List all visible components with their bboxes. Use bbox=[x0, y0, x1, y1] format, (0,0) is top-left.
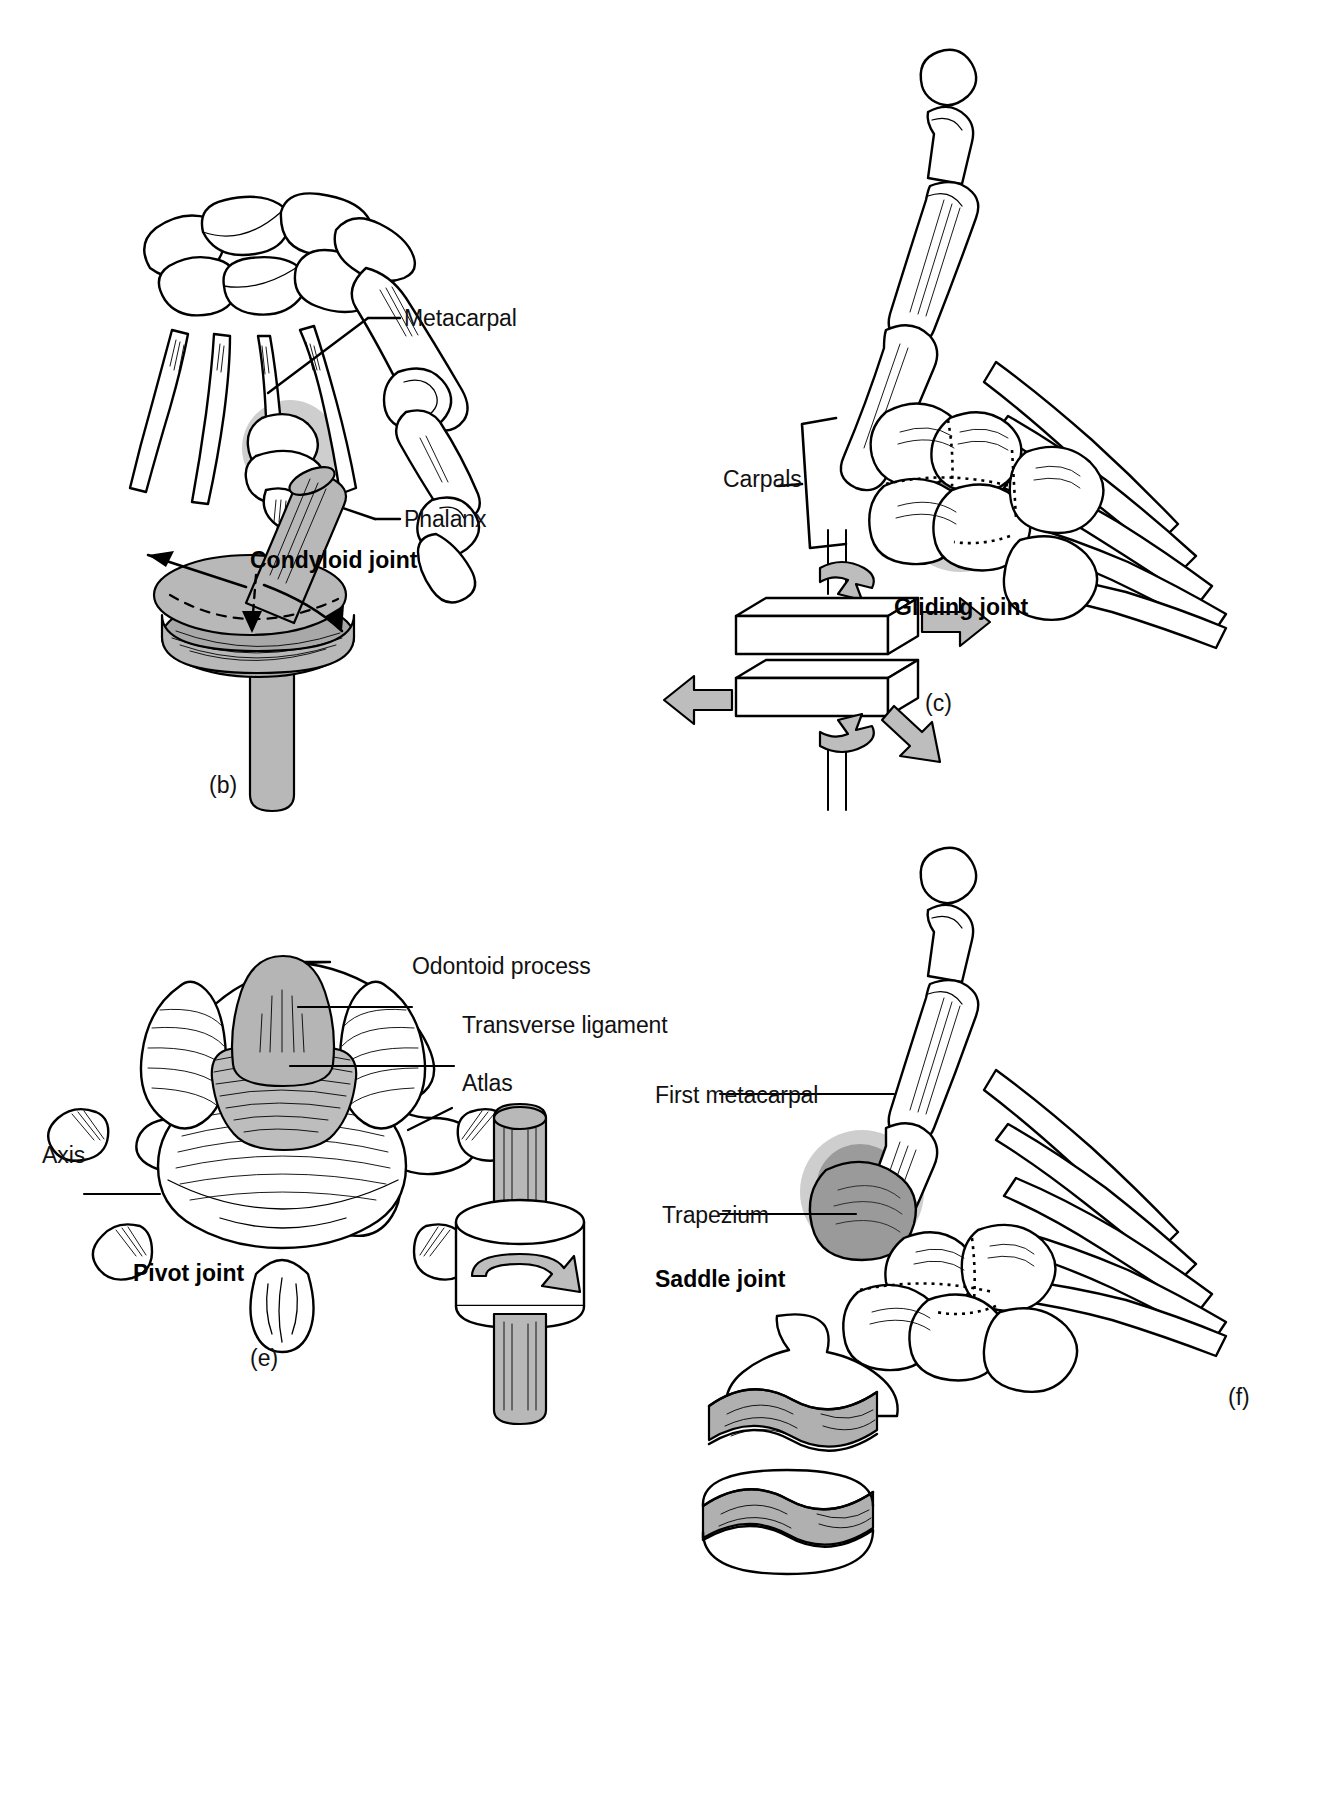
upper-slab bbox=[736, 598, 918, 654]
lower-saddle-surface bbox=[703, 1470, 873, 1574]
gliding-model-illustration bbox=[640, 520, 1000, 840]
caption-gliding-joint: Gliding joint bbox=[894, 594, 1028, 621]
label-transverse-ligament: Transverse ligament bbox=[462, 1012, 668, 1039]
label-carpals: Carpals bbox=[723, 466, 802, 493]
upper-saddle-surface bbox=[709, 1314, 898, 1450]
condyloid-model-illustration bbox=[100, 455, 500, 815]
label-first-metacarpal: First metacarpal bbox=[655, 1082, 818, 1109]
lower-slab bbox=[736, 660, 918, 716]
panel-letter-e: (e) bbox=[250, 1345, 278, 1372]
figure-root: Metacarpal Phalanx bbox=[0, 0, 1344, 1816]
panel-letter-c: (c) bbox=[925, 690, 952, 717]
panel-gliding-joint: Carpals bbox=[660, 0, 1344, 820]
pivot-model-illustration bbox=[430, 1100, 690, 1430]
caption-saddle-joint: Saddle joint bbox=[655, 1266, 785, 1293]
spinous-process bbox=[250, 1260, 313, 1352]
label-odontoid-process: Odontoid process bbox=[412, 953, 591, 980]
thumb-bones-group bbox=[889, 848, 979, 1144]
glide-arrow-left bbox=[664, 676, 732, 724]
label-metacarpal: Metacarpal bbox=[404, 305, 517, 332]
caption-condyloid-joint: Condyloid joint bbox=[250, 547, 417, 574]
arrowhead-left bbox=[148, 551, 174, 567]
panel-condyloid-joint: Metacarpal Phalanx bbox=[0, 0, 660, 820]
saddle-model-illustration bbox=[675, 1310, 975, 1590]
rotation-arrow-bottom bbox=[820, 714, 874, 752]
panel-letter-b: (b) bbox=[209, 772, 237, 799]
caption-pivot-joint: Pivot joint bbox=[133, 1260, 244, 1287]
panel-pivot-joint: Odontoid process Transverse ligament Atl… bbox=[0, 830, 660, 1816]
panel-saddle-joint: First metacarpal Trapezium bbox=[660, 830, 1344, 1816]
label-trapezium: Trapezium bbox=[662, 1202, 769, 1229]
label-axis: Axis bbox=[42, 1142, 85, 1169]
label-atlas: Atlas bbox=[462, 1070, 513, 1097]
panel-letter-f: (f) bbox=[1228, 1384, 1250, 1411]
